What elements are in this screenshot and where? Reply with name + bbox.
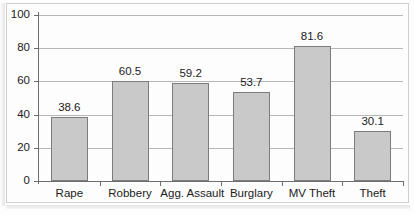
gridline-100 xyxy=(39,15,403,16)
gridline-80 xyxy=(39,48,403,49)
x-tick-mark-4 xyxy=(342,181,343,186)
frame-border-bottom xyxy=(6,202,409,203)
bar-value-label-0: 38.6 xyxy=(39,102,100,114)
bar-robbery xyxy=(112,81,149,181)
x-category-label-robbery: Robbery xyxy=(100,188,161,200)
bar-theft xyxy=(354,131,391,181)
plot-area xyxy=(39,15,403,181)
bar-value-label-5: 30.1 xyxy=(342,116,403,128)
x-tick-mark-5 xyxy=(403,181,404,186)
x-category-label-mv-theft: MV Theft xyxy=(282,188,343,200)
y-tick-label-40: 40 xyxy=(0,109,30,121)
bar-value-label-3: 53.7 xyxy=(221,77,282,89)
y-tick-label-60: 60 xyxy=(0,75,30,87)
bar-agg-assault xyxy=(172,83,209,181)
bar-burglary xyxy=(233,92,270,181)
bar-rape xyxy=(51,117,88,181)
x-tick-mark-0 xyxy=(100,181,101,186)
y-tick-label-80: 80 xyxy=(0,42,30,54)
x-category-label-agg-assault: Agg. Assault xyxy=(160,188,221,200)
figure-frame: 020406080100 38.660.559.253.781.630.1 Ra… xyxy=(0,0,414,215)
frame-shadow-bottom xyxy=(6,205,410,209)
x-category-label-theft: Theft xyxy=(342,188,403,200)
x-tick-mark-2 xyxy=(221,181,222,186)
frame-border-right xyxy=(408,3,409,203)
x-category-label-rape: Rape xyxy=(39,188,100,200)
x-tick-mark-1 xyxy=(160,181,161,186)
bar-value-label-2: 59.2 xyxy=(160,68,221,80)
gridline-20 xyxy=(39,148,403,149)
y-tick-label-0: 0 xyxy=(0,175,30,187)
bar-mv-theft xyxy=(294,46,331,181)
frame-border-top xyxy=(6,3,409,4)
y-tick-label-20: 20 xyxy=(0,142,30,154)
bar-value-label-4: 81.6 xyxy=(282,31,343,43)
frame-border-left xyxy=(6,3,7,203)
y-tick-label-100: 100 xyxy=(0,9,30,21)
bar-value-label-1: 60.5 xyxy=(100,66,161,78)
x-category-label-burglary: Burglary xyxy=(221,188,282,200)
x-tick-mark-3 xyxy=(282,181,283,186)
